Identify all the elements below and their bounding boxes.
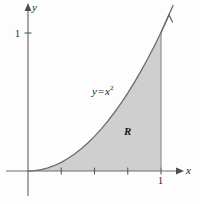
y-axis-label: y (32, 2, 37, 13)
x-axis-tick-label-one: 1 (158, 176, 163, 186)
y-axis-tick-label-one: 1 (15, 29, 20, 39)
curve-equation-label: y=x2 (92, 86, 114, 97)
x-axis-label: x (186, 165, 191, 176)
equation-operator: = (97, 85, 105, 97)
region-label-R: R (124, 126, 131, 137)
y-axis-arrow-icon (25, 3, 32, 11)
graph-canvas (0, 0, 200, 204)
equation-exponent: 2 (110, 84, 114, 92)
region-under-curve (28, 32, 161, 171)
x-axis-arrow-icon (176, 168, 184, 175)
figure-container: y x 1 1 y=x2 R (0, 0, 200, 204)
